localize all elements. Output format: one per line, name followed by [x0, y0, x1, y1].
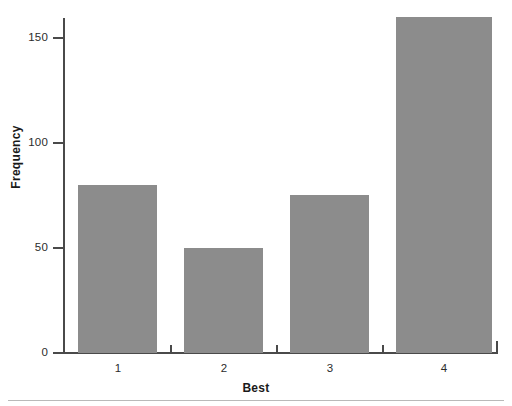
y-tick-mark-100 [53, 142, 64, 144]
x-axis-title: Best [0, 381, 512, 395]
y-tick-mark-50 [53, 247, 64, 249]
y-axis-line [63, 18, 65, 354]
bottom-divider [8, 400, 504, 401]
y-tick-mark-0 [53, 352, 64, 354]
x-tick-label-2: 2 [194, 362, 254, 374]
x-tick-mark-1 [170, 345, 172, 354]
bar-category-3 [290, 195, 369, 353]
plot-area: 0 50 100 150 1 2 3 4 [0, 0, 512, 406]
bar-category-1 [78, 185, 157, 353]
y-tick-mark-150 [53, 37, 64, 39]
x-axis-end-cap [496, 341, 498, 354]
y-tick-label-150: 150 [8, 31, 48, 43]
x-tick-mark-2 [276, 345, 278, 354]
x-tick-label-3: 3 [300, 362, 360, 374]
x-tick-label-4: 4 [414, 362, 474, 374]
x-tick-label-1: 1 [88, 362, 148, 374]
bar-category-4 [396, 17, 492, 353]
x-tick-mark-3 [382, 345, 384, 354]
chart-figure: 0 50 100 150 1 2 3 4 Frequency Best [0, 0, 512, 406]
y-tick-label-50: 50 [8, 241, 48, 253]
bar-category-2 [184, 248, 263, 353]
y-tick-label-0: 0 [8, 346, 48, 358]
y-axis-title: Frequency [9, 107, 23, 207]
